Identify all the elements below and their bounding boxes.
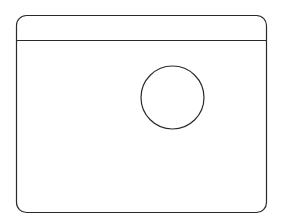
wireframe-drawing [0, 0, 284, 224]
window-frame [17, 16, 267, 213]
circle-shape [141, 66, 204, 129]
